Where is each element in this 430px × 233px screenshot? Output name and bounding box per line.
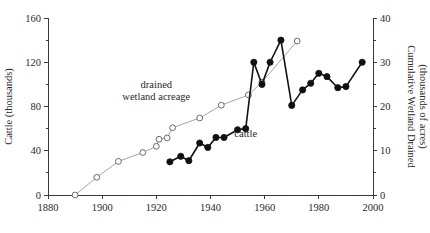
left-axis-tick-label-120: 120 xyxy=(25,57,41,68)
left-axis-tick-label-40: 40 xyxy=(31,145,42,156)
data-point-cattle-1966 xyxy=(278,37,284,43)
data-point-cattle-1980 xyxy=(316,70,322,76)
data-point-cattle-1945 xyxy=(221,134,227,140)
data-point-wetland-1898 xyxy=(94,174,100,180)
x-axis-tick-label-2000: 2000 xyxy=(363,202,384,213)
data-point-cattle-1974 xyxy=(299,87,305,93)
data-point-wetland-1890 xyxy=(72,192,78,198)
left-axis-tick-label-0: 0 xyxy=(36,190,41,201)
data-point-cattle-1925 xyxy=(167,159,173,165)
series-layer xyxy=(72,37,365,198)
data-point-wetland-1915 xyxy=(140,150,146,156)
data-point-cattle-1983 xyxy=(324,74,330,80)
chart-container: 0408012016001020304018801900192019401960… xyxy=(0,0,430,233)
right-axis-title-line1: Cumulative Wetland Drained xyxy=(406,45,417,168)
data-point-cattle-1929 xyxy=(178,153,184,159)
x-axis-tick-label-1940: 1940 xyxy=(200,202,221,213)
dual-axis-line-chart: 0408012016001020304018801900192019401960… xyxy=(0,0,430,233)
right-axis-tick-label-10: 10 xyxy=(380,145,391,156)
data-point-wetland-1920 xyxy=(153,143,159,149)
data-point-cattle-1932 xyxy=(186,158,192,164)
data-point-cattle-1962 xyxy=(267,59,273,65)
x-axis-tick-label-1980: 1980 xyxy=(308,202,329,213)
data-point-cattle-1959 xyxy=(259,81,265,87)
x-axis-tick-label-1960: 1960 xyxy=(254,202,275,213)
data-point-wetland-1921 xyxy=(156,136,162,142)
data-point-cattle-1936 xyxy=(197,140,203,146)
data-point-wetland-1924 xyxy=(164,135,170,141)
data-point-cattle-1970 xyxy=(289,102,295,108)
annotation-drained-wetland-line1: drained xyxy=(141,79,173,90)
annotation-cattle: cattle xyxy=(234,128,257,139)
x-axis-tick-label-1880: 1880 xyxy=(38,202,59,213)
data-point-wetland-1936 xyxy=(197,115,203,121)
x-axis-tick-label-1920: 1920 xyxy=(146,202,167,213)
left-axis-tick-label-80: 80 xyxy=(31,101,42,112)
data-point-cattle-1977 xyxy=(308,80,314,86)
x-axis-tick-label-1900: 1900 xyxy=(92,202,113,213)
annotation-drained-wetland-line2: wetland acreage xyxy=(122,91,190,102)
data-point-wetland-1906 xyxy=(116,158,122,164)
data-point-cattle-1990 xyxy=(343,83,349,89)
data-point-cattle-1987 xyxy=(335,85,341,91)
axes-layer: 0408012016001020304018801900192019401960… xyxy=(3,13,429,213)
data-point-cattle-1956 xyxy=(251,59,257,65)
right-axis-tick-label-20: 20 xyxy=(380,101,391,112)
data-point-wetland-1926 xyxy=(170,125,176,131)
annotation-layer: drainedwetland acreagecattle xyxy=(122,79,257,140)
data-point-wetland-1972 xyxy=(294,38,300,44)
data-point-cattle-1942 xyxy=(213,134,219,140)
right-axis-tick-label-40: 40 xyxy=(380,13,391,24)
plot-frame xyxy=(48,18,373,195)
series-line-wetland xyxy=(75,41,297,195)
data-point-cattle-1996 xyxy=(359,59,365,65)
left-axis-tick-label-160: 160 xyxy=(25,13,41,24)
right-axis-tick-label-30: 30 xyxy=(380,57,391,68)
left-axis-title: Cattle (thousands) xyxy=(3,68,15,145)
right-axis-tick-label-0: 0 xyxy=(380,190,385,201)
right-axis-title-line2: (thousands of acres) xyxy=(417,64,429,149)
data-point-cattle-1939 xyxy=(205,144,211,150)
data-point-wetland-1944 xyxy=(218,102,224,108)
